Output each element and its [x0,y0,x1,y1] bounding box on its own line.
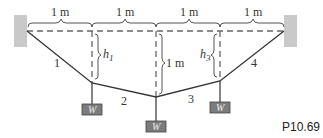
top-dimension-braces [28,19,284,27]
cable-diagram: 1 m 1 m 1 m 1 m h1 1 m h3 1 2 3 4 W W W [0,0,323,138]
weight-3: W [210,102,230,113]
segment-label-2: 2 [121,94,127,108]
segment-label-3: 3 [188,92,194,106]
left-wall-support [14,15,27,47]
weight-2: W [146,121,166,132]
figure-id: P10.69 [282,120,320,134]
dimension-label-4: 1 m [244,5,263,19]
weight-1: W [82,104,102,115]
right-wall-support [284,15,297,47]
sag-label-h1: h1 [103,47,114,63]
dimension-label-3: 1 m [180,5,199,19]
dimension-label-2: 1 m [116,5,135,19]
segment-label-4: 4 [251,56,257,70]
segment-label-1: 1 [54,56,60,70]
dashed-reference-lines [27,31,284,97]
dimension-label-1: 1 m [51,5,70,19]
sag-label-h3: h3 [200,47,211,63]
sag-label-middle: 1 m [166,56,185,70]
